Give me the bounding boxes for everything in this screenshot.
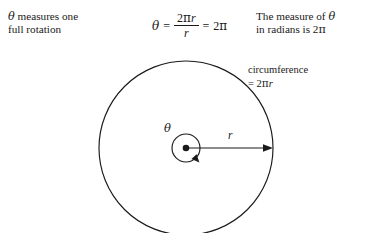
theta-angle-label: θ <box>164 123 171 135</box>
radius-label: r <box>228 130 232 142</box>
circle-diagram-canvas <box>0 0 384 233</box>
radius-arrowhead-icon <box>263 144 273 152</box>
center-dot <box>183 145 190 152</box>
radian-measure-figure: θ measures one full rotation θ = 2πr r =… <box>0 0 384 233</box>
